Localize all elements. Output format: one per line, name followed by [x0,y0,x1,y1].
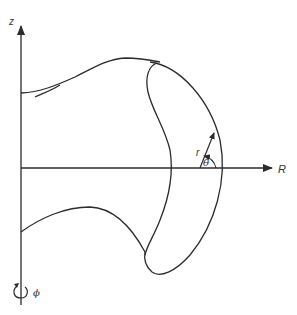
phi-label: ϕ [33,287,40,298]
upper-profile-curve [21,58,160,93]
r-axis-label: R [278,163,286,175]
r-local-label: r [196,147,200,158]
toroidal-coordinates-diagram: z R r θ ϕ [0,0,297,315]
inner-rim-curve [145,63,171,255]
lower-profile-curve [21,207,145,252]
z-axis-label: z [8,16,14,27]
body-contour [21,58,222,274]
diagram-canvas: z R r θ ϕ [0,0,297,315]
theta-label: θ [203,157,209,168]
